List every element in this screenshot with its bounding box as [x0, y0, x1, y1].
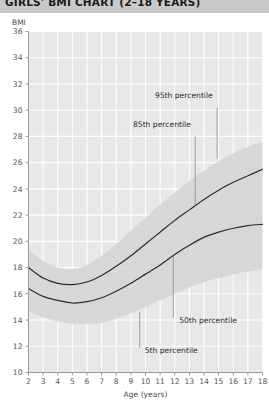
svg-text:9: 9	[128, 377, 133, 386]
svg-text:30: 30	[13, 106, 23, 115]
svg-text:8: 8	[114, 377, 119, 386]
annotation-p85-label: 85th percentile	[133, 120, 191, 129]
x-axis-ticks: 23456789101112131415161718	[26, 373, 267, 387]
svg-text:18: 18	[258, 377, 268, 386]
svg-text:11: 11	[155, 377, 165, 386]
svg-text:16: 16	[13, 290, 23, 299]
x-axis-label: Age (years)	[124, 390, 168, 399]
svg-text:24: 24	[13, 185, 23, 194]
svg-text:32: 32	[13, 80, 23, 89]
svg-text:16: 16	[228, 377, 238, 386]
bmi-chart-figure: 3634323028262422201816141210 23456789101…	[0, 13, 269, 416]
svg-text:3: 3	[41, 377, 46, 386]
svg-text:14: 14	[13, 316, 23, 325]
svg-text:7: 7	[99, 377, 104, 386]
svg-text:4: 4	[55, 377, 60, 386]
annotation-p5-label: 5th percentile	[145, 346, 198, 355]
svg-text:10: 10	[141, 377, 151, 386]
svg-text:36: 36	[13, 27, 23, 36]
svg-text:17: 17	[243, 377, 253, 386]
svg-text:20: 20	[13, 237, 23, 246]
page-title: GIRLS' BMI CHART (2–18 YEARS)	[5, 0, 201, 8]
y-axis-label: BMI	[12, 18, 26, 27]
svg-text:12: 12	[170, 377, 180, 386]
svg-text:6: 6	[85, 377, 90, 386]
chart-title-bar: GIRLS' BMI CHART (2–18 YEARS)	[0, 0, 269, 13]
svg-text:10: 10	[13, 368, 23, 377]
annotation-p50-label: 50th percentile	[179, 316, 237, 325]
bmi-chart-svg: 3634323028262422201816141210 23456789101…	[0, 13, 269, 416]
svg-text:15: 15	[214, 377, 224, 386]
svg-text:34: 34	[13, 53, 23, 62]
svg-text:13: 13	[185, 377, 195, 386]
svg-text:18: 18	[13, 263, 23, 272]
svg-text:2: 2	[26, 377, 31, 386]
svg-text:26: 26	[13, 158, 23, 167]
annotation-p95-label: 95th percentile	[155, 91, 213, 100]
svg-text:28: 28	[13, 132, 23, 141]
svg-text:14: 14	[199, 377, 209, 386]
y-axis-ticks: 3634323028262422201816141210	[13, 27, 29, 377]
svg-text:12: 12	[13, 342, 23, 351]
svg-text:5: 5	[70, 377, 75, 386]
svg-text:22: 22	[13, 211, 23, 220]
